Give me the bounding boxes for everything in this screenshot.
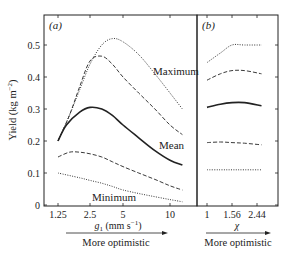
annotation-minimum: Minimum bbox=[92, 191, 136, 203]
panel-label-b: (b) bbox=[202, 19, 215, 32]
curve-b-mean bbox=[207, 102, 262, 107]
curve-b-lower bbox=[207, 142, 262, 145]
annotation-mean: Mean bbox=[159, 139, 185, 151]
optimism-arrow-a bbox=[66, 231, 168, 235]
tick-label: 1.25 bbox=[49, 209, 67, 220]
tick-label: 1.56 bbox=[223, 209, 241, 220]
y-axis-label: Yield (kg m−2) bbox=[6, 79, 19, 141]
arrow-label-a: More optimistic bbox=[82, 237, 150, 248]
tick-label: 2.5 bbox=[84, 209, 97, 220]
curve-a-mean bbox=[58, 107, 182, 165]
curves bbox=[58, 38, 262, 201]
optimism-arrow-b bbox=[206, 231, 271, 235]
plot-frame-b bbox=[197, 15, 278, 206]
x-axis-label-a: g1 (mm s−1) bbox=[94, 219, 141, 233]
axis-ticks: 00.10.20.30.40.51.252.551011.562.44 bbox=[28, 15, 279, 220]
tick-label: 5 bbox=[121, 209, 126, 220]
tick-label: 0.1 bbox=[28, 168, 41, 179]
panel-label-a: (a) bbox=[49, 19, 62, 32]
tick-label: 1 bbox=[205, 209, 210, 220]
arrow-label-b: More optimistic bbox=[204, 237, 272, 248]
tick-label: 2.44 bbox=[248, 209, 266, 220]
tick-label: 0.5 bbox=[28, 40, 41, 51]
tick-label: 0 bbox=[35, 200, 40, 211]
tick-label: 0.3 bbox=[28, 104, 41, 115]
yield-figure: 00.10.20.30.40.51.252.551011.562.44 (a) … bbox=[0, 0, 285, 254]
curve-b-maximum bbox=[207, 44, 262, 62]
plot-frame-a bbox=[44, 15, 197, 206]
curve-a-maximum bbox=[58, 38, 182, 141]
annotation-maximum: Maximum bbox=[153, 65, 199, 77]
curve-b-upper bbox=[207, 70, 262, 80]
tick-label: 0.4 bbox=[28, 72, 41, 83]
tick-label: 10 bbox=[165, 209, 175, 220]
tick-label: 0.2 bbox=[28, 136, 41, 147]
x-axis-label-b: χ bbox=[234, 220, 240, 231]
